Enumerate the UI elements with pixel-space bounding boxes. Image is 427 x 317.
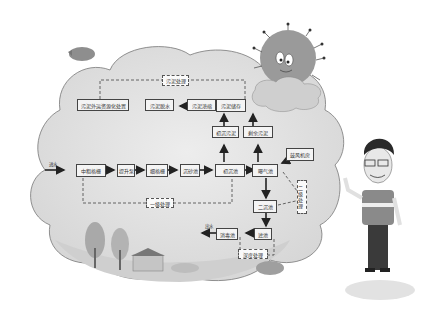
node-disinfection: 消毒池	[216, 228, 238, 240]
node-aeration: 曝气池	[252, 164, 278, 177]
node-secondary-clarifier: 二沉池	[253, 200, 277, 213]
node-sludge-treat: 污泥处理	[162, 75, 189, 86]
inlet-label: 进水	[49, 161, 57, 167]
turtle-icon	[69, 47, 95, 61]
node-primary-sludge: 初沉污泥	[212, 126, 239, 138]
house-icon	[133, 255, 163, 271]
man-character-icon	[345, 139, 415, 300]
node-grit: 沉砂池	[180, 164, 200, 177]
node-secondary-process: 二级处理	[297, 180, 307, 214]
outlet-label: 出水	[205, 223, 213, 229]
node-filter: 滤池	[254, 228, 272, 240]
diagram-canvas: 污泥外运资源化处置 污泥脱水 污泥浓缩 污泥储存 污泥处理 初沉污泥 剩余污泥 …	[0, 0, 427, 317]
node-primary-process: 一级处理	[146, 198, 174, 208]
diagram-background	[0, 0, 427, 317]
node-pump: 提升泵	[117, 164, 135, 177]
node-sludge-thicken: 污泥浓缩	[187, 99, 216, 111]
node-blower: 鼓风机房	[286, 148, 314, 161]
node-fine-screen: 细格栅	[146, 164, 168, 177]
node-sludge-storage: 污泥储存	[216, 99, 246, 112]
node-sludge-resource: 污泥外运资源化处置	[77, 99, 129, 111]
node-excess-sludge: 剩余污泥	[243, 126, 273, 138]
node-sludge-dewater: 污泥脱水	[145, 99, 174, 111]
node-deep-process: 深度处理	[238, 249, 268, 259]
node-primary-clarifier: 初沉池	[215, 164, 245, 177]
node-coarse-screen: 中粗格栅	[76, 164, 106, 177]
